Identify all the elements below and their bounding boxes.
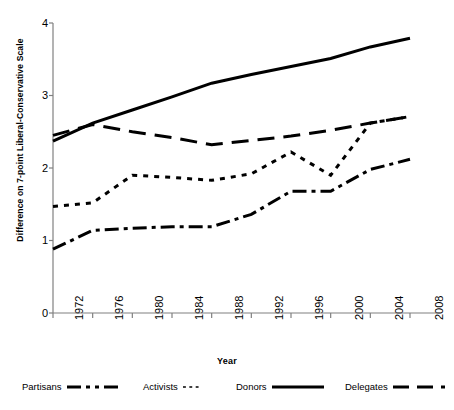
series-line-activists — [53, 117, 410, 207]
legend-label-activists: Activists — [143, 382, 178, 392]
legend-item-activists[interactable]: Activists — [143, 377, 213, 397]
legend-swatch-activists — [183, 382, 213, 392]
legend-item-donors[interactable]: Donors — [236, 377, 324, 397]
axis-lines — [49, 23, 437, 318]
legend-label-delegates: Delegates — [345, 382, 388, 392]
legend-swatch-partisans — [67, 382, 119, 392]
legend-label-donors: Donors — [236, 382, 267, 392]
series-lines — [53, 38, 410, 249]
legend-swatch-delegates — [393, 382, 445, 392]
legend-item-partisans[interactable]: Partisans — [22, 377, 119, 397]
legend-swatch-donors — [272, 382, 324, 392]
series-line-partisans — [53, 159, 410, 249]
legend-label-partisans: Partisans — [22, 382, 62, 392]
plot-area — [0, 0, 454, 410]
chart-legend: Partisans Activists Donors Delegates — [0, 377, 454, 399]
legend-item-delegates[interactable]: Delegates — [345, 377, 445, 397]
line-chart-figure: Difference on 7-point Liberal-Conservati… — [0, 0, 454, 410]
